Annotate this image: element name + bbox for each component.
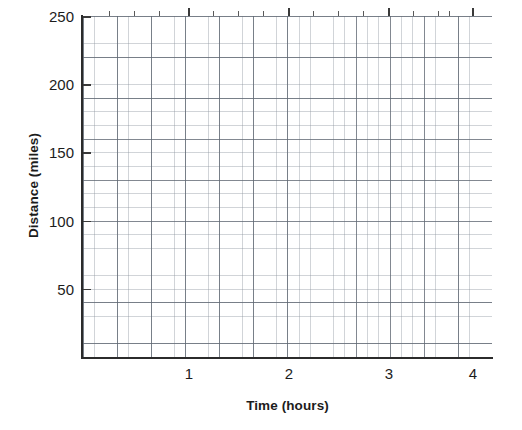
x-tick-mark-minor	[449, 11, 450, 16]
x-tick-mark-minor	[438, 11, 439, 16]
x-tick-label-2: 2	[269, 366, 309, 381]
x-tick-mark-minor	[413, 11, 414, 16]
x-tick-mark-minor	[213, 11, 214, 16]
y-tick-label-250: 250	[28, 9, 74, 24]
y-tick-mark-200	[83, 84, 91, 86]
minor-gridlines	[83, 16, 492, 357]
x-tick-label-4: 4	[453, 366, 493, 381]
x-axis-tick-labels: 1 2 3 4	[83, 366, 492, 388]
x-axis-title: Time (hours)	[83, 398, 492, 413]
y-tick-mark-100	[83, 221, 91, 223]
plot-area	[83, 16, 492, 357]
y-tick-label-50: 50	[28, 282, 74, 297]
x-axis-line	[81, 357, 493, 359]
y-tick-label-100: 100	[28, 214, 74, 229]
y-tick-label-200: 200	[28, 77, 74, 92]
y-tick-mark-50	[83, 289, 91, 291]
major-gridlines	[83, 16, 492, 357]
x-tick-mark-minor	[263, 11, 264, 16]
x-tick-mark-3	[388, 8, 390, 16]
chart-figure: Distance (miles) 250 200 150 100 50	[0, 0, 522, 430]
x-tick-mark-minor	[313, 11, 314, 16]
y-axis-line	[81, 15, 83, 358]
x-tick-mark-minor	[238, 11, 239, 16]
x-tick-mark-minor	[109, 11, 110, 16]
x-tick-mark-minor	[159, 11, 160, 16]
y-tick-mark-150	[83, 152, 91, 154]
y-tick-label-150: 150	[28, 145, 74, 160]
x-tick-mark-1	[188, 8, 190, 16]
y-tick-mark-250	[83, 16, 91, 18]
x-tick-mark-2	[288, 8, 290, 16]
x-tick-mark-minor	[134, 11, 135, 16]
y-axis-tick-labels: 250 200 150 100 50	[22, 16, 74, 357]
x-tick-label-1: 1	[169, 366, 209, 381]
x-tick-mark-minor	[363, 11, 364, 16]
x-tick-mark-minor	[338, 11, 339, 16]
x-tick-mark-4	[472, 8, 474, 16]
x-tick-label-3: 3	[369, 366, 409, 381]
